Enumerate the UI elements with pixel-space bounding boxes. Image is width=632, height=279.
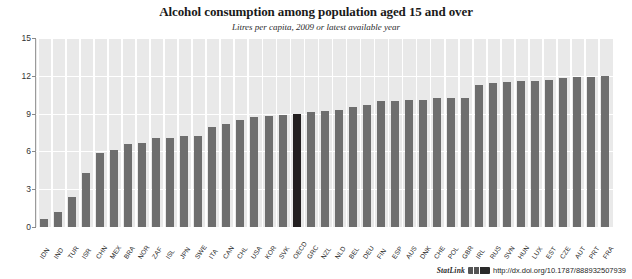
bar-slot-PRT: [584, 38, 598, 227]
bar-FIN[interactable]: [377, 101, 385, 227]
x-tick-label-IND: IND: [52, 246, 64, 260]
x-tick-label-CAN: CAN: [221, 244, 235, 260]
x-tick-label-KOR: KOR: [263, 244, 277, 260]
bar-GRC[interactable]: [307, 112, 315, 227]
bar-SVN[interactable]: [503, 82, 511, 227]
bar-SWE[interactable]: [194, 136, 202, 227]
bar-CZE[interactable]: [559, 78, 567, 227]
bar-slot-ISR: [79, 38, 93, 227]
bar-NLD[interactable]: [335, 110, 343, 227]
y-tick-label-15: 15: [0, 34, 31, 42]
bar-slot-BEL: [346, 38, 360, 227]
x-tick-label-USA: USA: [249, 245, 263, 260]
bar-FRA[interactable]: [601, 76, 609, 227]
x-tick-label-LUX: LUX: [531, 245, 544, 260]
bar-IRL[interactable]: [475, 85, 483, 227]
bar-CAN[interactable]: [222, 124, 230, 227]
x-tick-label-NZL: NZL: [319, 246, 332, 260]
bar-slot-AUS: [402, 38, 416, 227]
bar-DNK[interactable]: [419, 100, 427, 227]
statlink-url[interactable]: http://dx.doi.org/10.1787/888932507939: [493, 266, 626, 275]
statlink-footer: StatLink http://dx.doi.org/10.1787/88893…: [437, 266, 626, 275]
bar-ISL[interactable]: [166, 138, 174, 227]
bar-slot-IDN: [37, 38, 51, 227]
bar-ITA[interactable]: [208, 127, 216, 227]
bar-slot-MEX: [107, 38, 121, 227]
bar-AUS[interactable]: [405, 100, 413, 227]
bar-SVK[interactable]: [279, 115, 287, 227]
bar-POL[interactable]: [447, 98, 455, 227]
x-tick-label-CHL: CHL: [235, 245, 248, 260]
bar-slot-LUX: [528, 38, 542, 227]
x-tick-label-CHN: CHN: [94, 244, 108, 260]
bar-slot-SWE: [191, 38, 205, 227]
bar-slot-NOR: [135, 38, 149, 227]
bar-slot-POL: [444, 38, 458, 227]
x-tick-label-JPN: JPN: [179, 246, 192, 260]
bar-slot-IRL: [472, 38, 486, 227]
bar-slot-CHL: [233, 38, 247, 227]
x-tick-label-TUR: TUR: [66, 245, 80, 260]
bar-ZAF[interactable]: [152, 138, 160, 227]
x-tick-label-NLD: NLD: [334, 245, 347, 260]
bar-IND[interactable]: [54, 212, 62, 227]
bar-series: [36, 38, 613, 227]
y-tick-label-3: 3: [0, 185, 31, 193]
x-tick-label-ZAF: ZAF: [151, 246, 164, 260]
x-tick-label-IRL: IRL: [474, 247, 486, 260]
bar-BEL[interactable]: [349, 107, 357, 227]
bar-DEU[interactable]: [363, 105, 371, 227]
x-tick-label-OECD: OECD: [291, 240, 308, 260]
bar-RUS[interactable]: [489, 83, 497, 227]
bar-TUR[interactable]: [68, 197, 76, 227]
bar-GBR[interactable]: [461, 98, 469, 227]
chart-subtitle: Litres per capita, 2009 or latest availa…: [0, 22, 632, 32]
bar-slot-OECD: [290, 38, 304, 227]
bar-NOR[interactable]: [138, 143, 146, 227]
bar-CHN[interactable]: [96, 153, 104, 227]
bar-PRT[interactable]: [587, 77, 595, 227]
x-tick-label-CHE: CHE: [432, 244, 446, 260]
bar-slot-DNK: [416, 38, 430, 227]
x-tick-label-MEX: MEX: [108, 244, 122, 260]
bar-IDN[interactable]: [40, 219, 48, 227]
x-tick-label-RUS: RUS: [488, 244, 502, 260]
bar-ISR[interactable]: [82, 173, 90, 227]
bar-KOR[interactable]: [265, 116, 273, 227]
bar-slot-RUS: [486, 38, 500, 227]
bar-ESP[interactable]: [391, 101, 399, 227]
bar-slot-ITA: [205, 38, 219, 227]
bar-BRA[interactable]: [124, 144, 132, 227]
bar-slot-ISL: [163, 38, 177, 227]
x-tick-label-AUT: AUT: [573, 245, 586, 260]
bar-OECD[interactable]: [293, 114, 301, 227]
chart-title: Alcohol consumption among population age…: [0, 4, 632, 20]
x-tick-label-SVN: SVN: [502, 245, 516, 260]
bar-slot-DEU: [360, 38, 374, 227]
bar-USA[interactable]: [250, 117, 258, 227]
bar-EST[interactable]: [545, 80, 553, 227]
y-tick-label-0: 0: [0, 223, 31, 231]
x-tick-label-ISL: ISL: [165, 248, 177, 260]
bar-LUX[interactable]: [531, 81, 539, 227]
x-tick-label-ESP: ESP: [390, 245, 403, 260]
bar-NZL[interactable]: [321, 111, 329, 227]
bar-slot-ESP: [388, 38, 402, 227]
y-tick-label-9: 9: [0, 110, 31, 118]
x-tick-label-FIN: FIN: [376, 247, 388, 260]
x-tick-label-GRC: GRC: [305, 244, 319, 260]
bar-slot-CZE: [556, 38, 570, 227]
x-tick-label-AUS: AUS: [404, 245, 418, 260]
bar-CHE[interactable]: [433, 98, 441, 227]
bar-MEX[interactable]: [110, 150, 118, 227]
bar-JPN[interactable]: [180, 136, 188, 227]
bar-slot-NZL: [318, 38, 332, 227]
bar-slot-GBR: [458, 38, 472, 227]
bar-HUN[interactable]: [517, 81, 525, 227]
bar-slot-EST: [542, 38, 556, 227]
x-tick-label-FRA: FRA: [601, 245, 614, 260]
bar-slot-NLD: [332, 38, 346, 227]
bar-AUT[interactable]: [573, 77, 581, 227]
bar-CHL[interactable]: [236, 120, 244, 227]
x-tick-label-BRA: BRA: [122, 245, 136, 260]
